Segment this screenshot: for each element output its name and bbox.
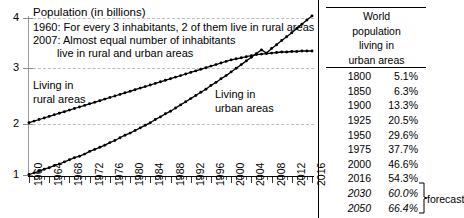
table-cell-year: 2050 xyxy=(319,202,374,214)
table-header-line-4: urban areas xyxy=(319,53,434,68)
table-row: 18506.3% xyxy=(319,84,434,99)
table-row: 197537.7% xyxy=(319,142,434,157)
table-row: 205066.4% xyxy=(319,200,434,215)
table-header-line-2: population xyxy=(319,24,434,39)
series-label-urban-line2: urban areas xyxy=(215,102,274,114)
table-cell-percent: 29.6% xyxy=(374,129,418,141)
series-label-rural-line1: Living in xyxy=(33,79,73,91)
chart-plot-area: 4 3 2 1 19601964196819721976198019841988… xyxy=(0,0,318,218)
table-top-rule xyxy=(326,7,426,8)
table-cell-percent: 5.1% xyxy=(374,70,418,82)
table-row: 200046.6% xyxy=(319,157,434,172)
table-header-rule xyxy=(326,67,426,68)
note-1960: 1960: For every 3 inhabitants, 2 of them… xyxy=(33,21,314,35)
table-cell-year: 1975 xyxy=(319,143,374,155)
table-cell-year: 1925 xyxy=(319,114,374,126)
table-cell-year: 1900 xyxy=(319,99,374,111)
table-cell-percent: 54.3% xyxy=(374,172,418,184)
series-label-urban-line1: Living in xyxy=(215,88,255,100)
table-cell-percent: 13.3% xyxy=(374,99,418,111)
table-body: 18005.1%18506.3%190013.3%192520.5%195029… xyxy=(319,69,434,215)
axis-title: Population (in billions) xyxy=(33,6,146,20)
table-cell-year: 2030 xyxy=(319,187,374,199)
table-cell-year: 1850 xyxy=(319,85,374,97)
table-cell-percent: 20.5% xyxy=(374,114,418,126)
table-cell-percent: 6.3% xyxy=(374,85,418,97)
table-row: 192520.5% xyxy=(319,113,434,128)
table-cell-year: 2000 xyxy=(319,158,374,170)
note-2007: 2007: Almost equal number of inhabitants xyxy=(33,34,235,48)
table-cell-year: 1800 xyxy=(319,70,374,82)
table-row: 201654.3% xyxy=(319,171,434,186)
series-label-rural-line2: rural areas xyxy=(33,93,86,105)
table-header-line-3: living in xyxy=(319,38,434,53)
table-row: 190013.3% xyxy=(319,98,434,113)
table-cell-percent: 60.0% xyxy=(374,187,418,199)
table-row: 195029.6% xyxy=(319,127,434,142)
table-cell-percent: 37.7% xyxy=(374,143,418,155)
table-row: 203060.0% xyxy=(319,186,434,201)
forecast-label: forecast xyxy=(427,193,464,205)
world-urban-population-table: World population living in urban areas 1… xyxy=(318,0,433,218)
table-row: 18005.1% xyxy=(319,69,434,84)
table-cell-percent: 46.6% xyxy=(374,158,418,170)
series-label-rural: Living inrural areas xyxy=(33,79,86,106)
table-header: World population living in urban areas xyxy=(319,9,434,67)
series-label-urban: Living inurban areas xyxy=(215,88,274,115)
table-header-line-1: World xyxy=(319,9,434,24)
table-cell-year: 2016 xyxy=(319,172,374,184)
table-cell-year: 1950 xyxy=(319,129,374,141)
note-2007-cont: live in rural and urban areas xyxy=(57,47,193,61)
table-cell-percent: 66.4% xyxy=(374,202,418,214)
